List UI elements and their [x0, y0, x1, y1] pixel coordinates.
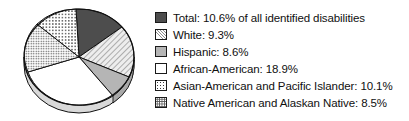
- pie-chart-figure: Total: 10.6% of all identified disabilit…: [0, 0, 409, 121]
- pie-chart-graphic: [0, 0, 152, 121]
- legend-label-african-american: African-American: 18.9%: [173, 63, 298, 75]
- legend-item-asian-american: Asian-American and Pacific Islander: 10.…: [155, 77, 407, 94]
- legend-swatch-white: [155, 29, 167, 40]
- legend-label-white: White: 9.3%: [173, 29, 234, 41]
- legend-label-asian-american: Asian-American and Pacific Islander: 10.…: [173, 80, 393, 92]
- legend-swatch-total: [155, 12, 167, 23]
- legend-item-total: Total: 10.6% of all identified disabilit…: [155, 9, 407, 26]
- chart-legend: Total: 10.6% of all identified disabilit…: [155, 9, 407, 111]
- legend-swatch-hispanic: [155, 46, 167, 57]
- legend-item-white: White: 9.3%: [155, 26, 407, 43]
- legend-swatch-african-american: [155, 63, 167, 74]
- legend-label-total: Total: 10.6% of all identified disabilit…: [173, 12, 365, 24]
- legend-label-hispanic: Hispanic: 8.6%: [173, 46, 248, 58]
- pie-svg: [0, 0, 152, 121]
- legend-item-native-american: Native American and Alaskan Native: 8.5%: [155, 94, 407, 111]
- legend-label-native-american: Native American and Alaskan Native: 8.5%: [173, 97, 387, 109]
- legend-swatch-asian-american: [155, 80, 167, 91]
- legend-swatch-native-american: [155, 97, 167, 108]
- legend-item-african-american: African-American: 18.9%: [155, 60, 407, 77]
- legend-item-hispanic: Hispanic: 8.6%: [155, 43, 407, 60]
